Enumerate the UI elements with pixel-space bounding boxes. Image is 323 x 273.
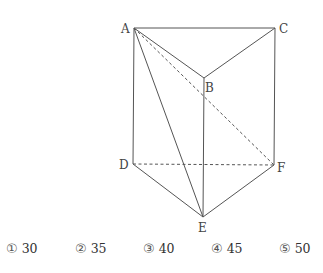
choice-4[interactable]: ④45 [211,241,243,256]
vertex-label-A: A [120,22,130,36]
answer-choices: ①30 ②35 ③40 ④45 ⑤50 [0,241,323,263]
vertex-label-E: E [198,221,207,235]
diagonal-AE [134,28,203,217]
vertex-label-C: C [279,22,288,36]
edge-BE [203,78,204,217]
edge-BC [204,28,275,78]
vertex-label-B: B [205,81,214,95]
edge-DE [133,164,203,217]
edge-AD [133,28,134,164]
choice-5[interactable]: ⑤50 [279,241,311,256]
choice-value: 50 [295,241,311,256]
choice-value: 40 [159,241,175,256]
edge-EF [203,165,274,217]
vertex-label-D: D [119,158,129,172]
choice-value: 30 [22,241,38,256]
choice-number: ① [6,241,18,256]
choice-number: ④ [211,241,223,256]
edge-CF [274,28,275,165]
choice-value: 35 [91,241,107,256]
choice-number: ② [75,241,87,256]
choice-2[interactable]: ②35 [75,241,107,256]
choice-number: ⑤ [279,241,291,256]
triangular-prism-diagram: A C B D F E [0,0,323,240]
choice-value: 45 [227,241,243,256]
vertex-label-F: F [277,161,285,175]
choice-number: ③ [143,241,155,256]
choice-1[interactable]: ①30 [6,241,38,256]
edge-AB [134,28,204,78]
choice-3[interactable]: ③40 [143,241,175,256]
